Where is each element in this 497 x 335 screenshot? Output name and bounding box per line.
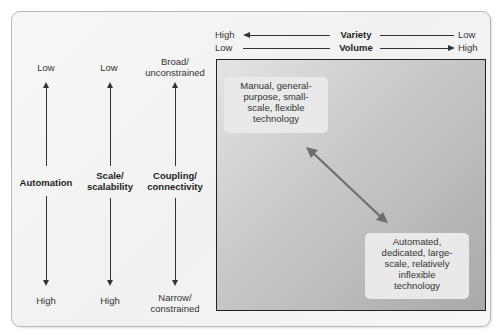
automation-down-line <box>46 196 47 280</box>
coupling-bottom-line1: Narrow/ <box>146 292 204 303</box>
note-line: scale, flexible <box>224 102 328 113</box>
coupling-down-arrowhead-icon <box>172 280 178 286</box>
note-line: technology <box>365 280 469 291</box>
note-line: scale, relatively <box>365 258 469 269</box>
coupling-top-line1: Broad/ <box>142 56 208 67</box>
coupling-bottom-label: Narrow/ constrained <box>146 292 204 314</box>
coupling-down-line <box>175 198 176 280</box>
automation-down-arrowhead-icon <box>43 280 49 286</box>
variety-left-label: High <box>215 29 235 40</box>
scale-label: Scale/ scalability <box>82 170 138 192</box>
volume-left-label: Low <box>215 42 232 53</box>
coupling-label-line2: connectivity <box>143 181 207 192</box>
automation-bottom-label: High <box>32 295 60 306</box>
note-line: Manual, general- <box>224 80 328 91</box>
variety-right-line <box>380 35 454 36</box>
variety-left-line <box>249 35 330 36</box>
volume-right-arrowhead-icon <box>448 45 455 51</box>
note-line: dedicated, large- <box>365 247 469 258</box>
automation-up-line <box>46 86 47 166</box>
volume-label: Volume <box>336 42 376 53</box>
variety-right-label: Low <box>458 29 475 40</box>
scale-bottom-label: High <box>96 295 124 306</box>
manual-technology-note: Manual, general- purpose, small- scale, … <box>224 77 328 133</box>
scale-down-line <box>110 198 111 280</box>
automation-label: Automation <box>14 177 78 188</box>
automated-technology-note: Automated, dedicated, large- scale, rela… <box>365 233 469 299</box>
volume-left-line <box>243 48 330 49</box>
note-line: inflexible <box>365 269 469 280</box>
variety-label: Variety <box>339 29 373 40</box>
scale-top-label: Low <box>97 62 121 73</box>
automation-top-label: Low <box>34 62 58 73</box>
note-line: technology <box>224 113 328 124</box>
coupling-bottom-line2: constrained <box>146 303 204 314</box>
bidirectional-diagonal-arrow-icon <box>270 130 410 240</box>
note-line: Automated, <box>365 236 469 247</box>
scale-up-line <box>110 86 111 166</box>
coupling-label: Coupling/ connectivity <box>143 170 207 192</box>
volume-right-label: High <box>458 42 478 53</box>
volume-right-line <box>380 48 448 49</box>
scale-label-line2: scalability <box>82 181 138 192</box>
coupling-label-line1: Coupling/ <box>143 170 207 181</box>
coupling-top-line2: unconstrained <box>142 67 208 78</box>
scale-down-arrowhead-icon <box>107 280 113 286</box>
coupling-up-line <box>175 86 176 166</box>
coupling-top-label: Broad/ unconstrained <box>142 56 208 78</box>
scale-label-line1: Scale/ <box>82 170 138 181</box>
note-line: purpose, small- <box>224 91 328 102</box>
